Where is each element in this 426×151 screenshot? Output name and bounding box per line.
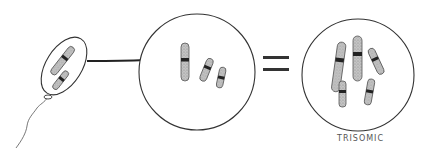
flagellum [16, 97, 48, 148]
chromosome [181, 43, 189, 81]
chromosome [339, 81, 346, 107]
trisomic-nucleus [302, 19, 414, 131]
trisomy-diagram [0, 0, 426, 151]
equals-sign [263, 56, 289, 71]
normal-nucleus [139, 14, 255, 130]
chromosome [353, 36, 362, 81]
gamete-cell [16, 29, 96, 148]
trisomic-label: TRISOMIC [337, 134, 384, 143]
